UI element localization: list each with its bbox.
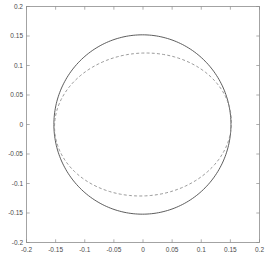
x-tick-label: -0.05 — [106, 246, 121, 253]
x-tick-label: 0.15 — [224, 246, 237, 253]
y-tick-label: 0.05 — [10, 91, 23, 98]
plot-canvas: -0.2-0.15-0.1-0.0500.050.10.150.2 -0.2-0… — [0, 0, 269, 265]
axes-frame — [27, 7, 260, 243]
y-tick-label: -0.1 — [12, 180, 24, 187]
curve-outer-circle — [54, 35, 231, 214]
y-tick-label: -0.05 — [8, 150, 23, 157]
y-tick-label: 0.2 — [14, 3, 23, 10]
y-tick-label: -0.15 — [8, 209, 23, 216]
x-tick-label: -0.2 — [21, 246, 33, 253]
y-axis-tick-labels: -0.2-0.15-0.1-0.0500.050.10.150.2 — [8, 3, 23, 246]
x-axis-tick-labels: -0.2-0.15-0.1-0.0500.050.10.150.2 — [21, 246, 264, 253]
data-curves — [54, 35, 232, 214]
x-axis-ticks — [27, 7, 260, 243]
x-tick-label: 0.1 — [197, 246, 206, 253]
x-tick-label: 0 — [141, 246, 145, 253]
curve-inner-ellipse — [55, 53, 232, 196]
x-tick-label: -0.15 — [48, 246, 63, 253]
x-tick-label: 0.05 — [166, 246, 179, 253]
y-tick-label: 0.1 — [14, 62, 23, 69]
y-axis-ticks — [27, 7, 260, 243]
y-tick-label: 0.15 — [10, 32, 23, 39]
figure-container: -0.2-0.15-0.1-0.0500.050.10.150.2 -0.2-0… — [0, 0, 269, 265]
x-tick-label: 0.2 — [255, 246, 264, 253]
y-tick-label: -0.2 — [12, 239, 24, 246]
y-tick-label: 0 — [19, 121, 23, 128]
axes-frame-rect — [27, 7, 260, 243]
x-tick-label: -0.1 — [79, 246, 91, 253]
